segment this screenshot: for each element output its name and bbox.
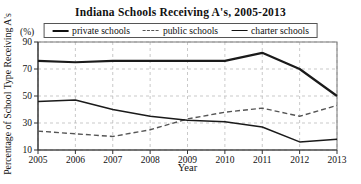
legend-label-public-schools: public schools — [163, 25, 218, 36]
y-tick-label: 10 — [23, 145, 33, 155]
y-tick-label: 90 — [23, 37, 33, 47]
private-schools-line-swatch-icon — [52, 30, 68, 32]
chart-legend: private schools public schools charter s… — [43, 23, 318, 38]
y-tick-label: 70 — [23, 64, 33, 74]
legend-label-private-schools: private schools — [72, 25, 130, 36]
charter-schools-line — [38, 100, 337, 142]
legend-label-charter-schools: charter schools — [251, 25, 309, 36]
legend-item-private-schools: private schools — [52, 25, 130, 36]
public-schools-line-swatch-icon — [143, 30, 159, 31]
legend-item-charter-schools: charter schools — [231, 25, 309, 36]
y-tick-label: 30 — [23, 118, 33, 128]
charter-schools-line-swatch-icon — [231, 30, 247, 31]
legend-item-public-schools: public schools — [143, 25, 218, 36]
x-axis-label: Year — [38, 162, 337, 173]
y-tick-label: 50 — [23, 91, 33, 101]
